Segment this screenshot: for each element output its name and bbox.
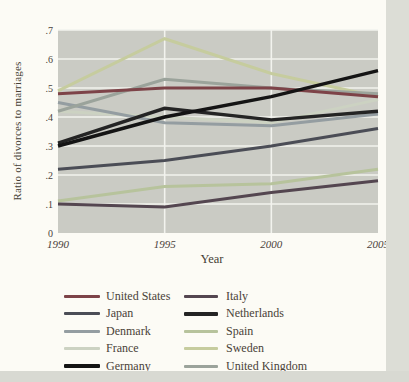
legend-label-sweden: Sweden — [226, 341, 264, 356]
legend-item-spain: Spain — [184, 323, 253, 339]
legend-label-japan: Japan — [106, 306, 133, 321]
legend-label-united-states: United States — [106, 289, 170, 304]
figure-page: 0.1.2.3.4.5.6.71990199520002005 Ratio of… — [0, 0, 409, 382]
legend-swatch-netherlands — [184, 312, 218, 316]
y-tick-label: .5 — [46, 83, 54, 94]
x-tick-label: 1990 — [47, 238, 70, 250]
legend-swatch-france — [64, 347, 100, 350]
legend-label-spain: Spain — [226, 324, 253, 339]
legend-label-netherlands: Netherlands — [226, 306, 284, 321]
x-tick-label: 2000 — [260, 238, 283, 250]
legend-item-united-states: United States — [64, 288, 170, 304]
legend-item-japan: Japan — [64, 306, 133, 322]
y-axis-title: Ratio of divorces to marriages — [11, 61, 23, 200]
legend-label-denmark: Denmark — [106, 324, 151, 339]
legend-label-italy: Italy — [226, 289, 248, 304]
scan-edge-right — [386, 0, 409, 382]
legend-item-netherlands: Netherlands — [184, 306, 284, 322]
scan-edge-bottom — [0, 371, 409, 382]
y-tick-label: .4 — [46, 112, 54, 123]
legend-swatch-sweden — [184, 347, 218, 350]
legend-item-italy: Italy — [184, 288, 248, 304]
x-tick-label: 1995 — [154, 238, 177, 250]
legend-item-denmark: Denmark — [64, 323, 151, 339]
legend-swatch-germany — [64, 364, 100, 368]
legend-swatch-united-kingdom — [184, 365, 218, 368]
divorce-marriage-line-chart: 0.1.2.3.4.5.6.71990199520002005 — [0, 0, 409, 270]
legend-swatch-denmark — [64, 330, 100, 333]
legend-swatch-italy — [184, 295, 218, 298]
legend-swatch-united-states — [64, 295, 100, 298]
legend-swatch-spain — [184, 330, 218, 333]
x-axis-title: Year — [0, 252, 409, 267]
legend-item-sweden: Sweden — [184, 341, 264, 357]
legend-item-france: France — [64, 341, 139, 357]
y-tick-label: .1 — [46, 199, 54, 210]
y-tick-label: .3 — [46, 141, 54, 152]
legend-swatch-japan — [64, 312, 100, 315]
y-tick-label: .7 — [46, 25, 54, 36]
y-tick-label: .2 — [46, 170, 54, 181]
y-tick-label: 0 — [48, 228, 53, 239]
legend-label-france: France — [106, 341, 139, 356]
y-tick-label: .6 — [46, 54, 54, 65]
